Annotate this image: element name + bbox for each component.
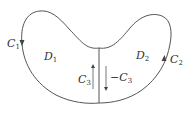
c2-arrow-icon [162, 55, 167, 61]
boundary-curve-c1 [22, 11, 99, 103]
label-neg-c3: −C3 [110, 71, 132, 85]
label-c1: C1 [7, 37, 20, 51]
label-d2: D2 [135, 49, 149, 63]
label-c2: C2 [170, 53, 183, 67]
label-c3: C3 [78, 73, 91, 87]
region-diagram: C1 D1 D2 C2 C3 −C3 [0, 0, 194, 116]
c1-arrow-icon [20, 40, 25, 46]
label-d1: D1 [43, 50, 57, 64]
